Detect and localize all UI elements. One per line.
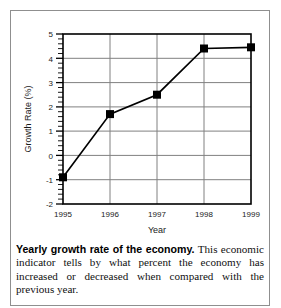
x-tick-label: 1995 [54, 210, 72, 219]
y-tick-label: 4 [49, 55, 54, 64]
y-axis-title: Growth Rate (%) [23, 85, 33, 152]
y-tick-label: 5 [49, 30, 54, 39]
x-axis-tick-labels: 1995 1996 1997 1998 1999 [54, 210, 260, 219]
caption-lead: Yearly growth rate of the economy. [16, 243, 195, 255]
y-tick-label: 0 [49, 152, 54, 161]
data-point-marker [247, 43, 255, 51]
x-tick-label: 1997 [148, 210, 166, 219]
data-point-marker [106, 110, 114, 118]
y-tick-label: 3 [49, 79, 54, 88]
y-tick-label: 1 [49, 127, 54, 136]
y-axis-tick-labels: 5 4 3 2 1 0 -1 -2 [46, 30, 54, 209]
y-tick-label: 2 [49, 103, 54, 112]
data-point-marker [200, 45, 208, 53]
x-tick-label: 1999 [242, 210, 260, 219]
data-point-marker [153, 91, 161, 99]
figure-frame: 5 4 3 2 1 0 -1 -2 1995 1996 1997 1998 19… [10, 10, 270, 306]
growth-rate-line-chart: 5 4 3 2 1 0 -1 -2 1995 1996 1997 1998 19… [11, 11, 269, 239]
x-tick-label: 1998 [195, 210, 213, 219]
y-tick-label: -1 [46, 176, 54, 185]
y-tick-label: -2 [46, 200, 54, 209]
data-point-marker [59, 173, 67, 181]
x-axis-title: Year [148, 225, 166, 235]
x-tick-label: 1996 [101, 210, 119, 219]
chart-region: 5 4 3 2 1 0 -1 -2 1995 1996 1997 1998 19… [11, 11, 269, 239]
figure-caption: Yearly growth rate of the economy. This … [16, 243, 264, 297]
